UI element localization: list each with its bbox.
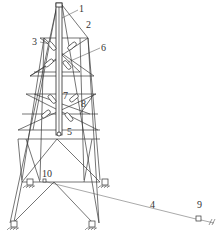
label-1: 1 <box>79 3 84 14</box>
cable-anchor <box>196 216 201 221</box>
base-support <box>85 221 97 230</box>
base-support <box>7 221 19 230</box>
guy-cable <box>43 179 215 225</box>
label-10: 10 <box>42 168 52 179</box>
label-3: 3 <box>32 36 37 47</box>
label-7: 7 <box>63 90 68 101</box>
label-8: 8 <box>81 98 86 109</box>
label-5: 5 <box>67 126 72 137</box>
base-support <box>23 179 35 188</box>
label-9: 9 <box>197 199 202 210</box>
label-6: 6 <box>101 42 106 53</box>
mast <box>56 3 62 136</box>
tower-frame <box>10 5 100 223</box>
tower-diagram: 1 2 3 6 7 8 5 10 4 9 <box>0 0 224 237</box>
label-2: 2 <box>86 19 91 30</box>
base-support <box>98 179 110 188</box>
label-4: 4 <box>150 199 155 210</box>
